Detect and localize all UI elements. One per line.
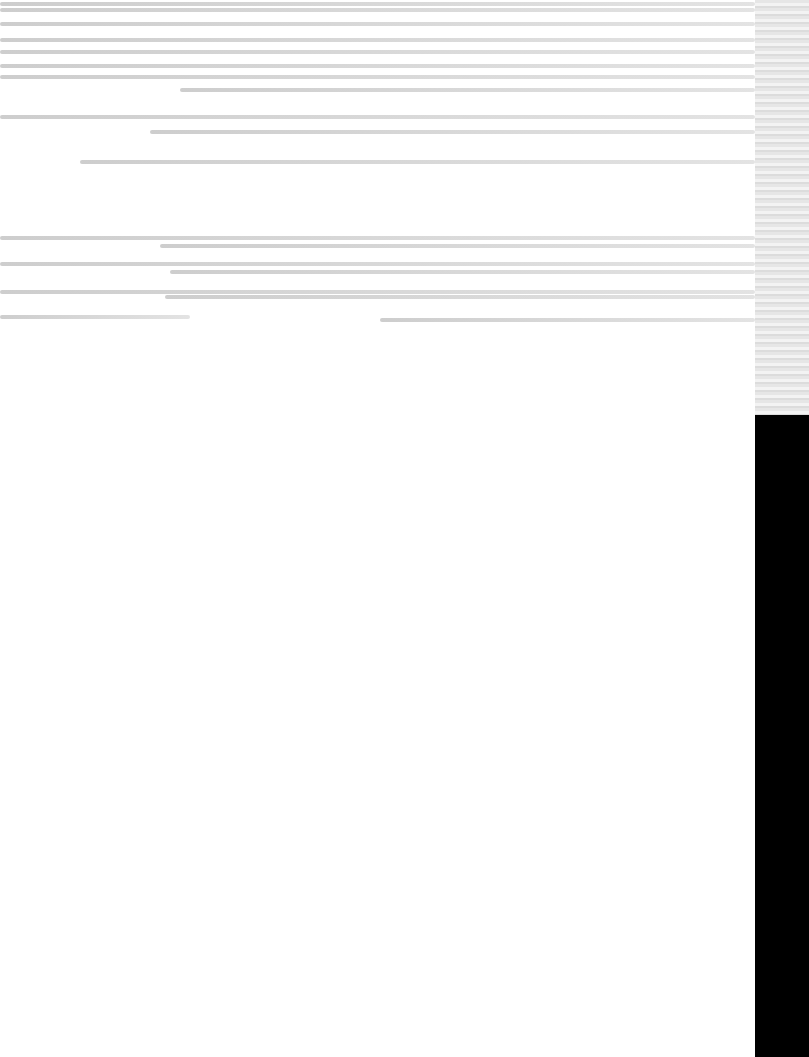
- render-streak: [0, 64, 755, 68]
- render-streak: [0, 315, 190, 319]
- render-streak: [80, 160, 755, 164]
- render-streak: [160, 244, 755, 248]
- render-streak: [150, 130, 755, 134]
- render-streak: [0, 236, 755, 240]
- render-streak: [170, 270, 755, 274]
- render-streak: [0, 115, 755, 119]
- corrupted-render-region: [0, 0, 755, 330]
- render-streak: [0, 75, 755, 79]
- right-dark-panel: [755, 415, 809, 1057]
- render-streak: [380, 318, 755, 322]
- render-streak: [180, 88, 755, 92]
- render-streak: [0, 50, 755, 54]
- right-edge-strip: [755, 0, 809, 415]
- render-streak: [0, 262, 755, 266]
- blank-content-area: [0, 330, 755, 1057]
- render-streak: [165, 295, 755, 299]
- render-streak: [0, 38, 755, 42]
- render-streak: [0, 290, 755, 294]
- render-streak: [0, 22, 755, 26]
- render-streak: [0, 2, 755, 6]
- render-streak: [0, 8, 755, 12]
